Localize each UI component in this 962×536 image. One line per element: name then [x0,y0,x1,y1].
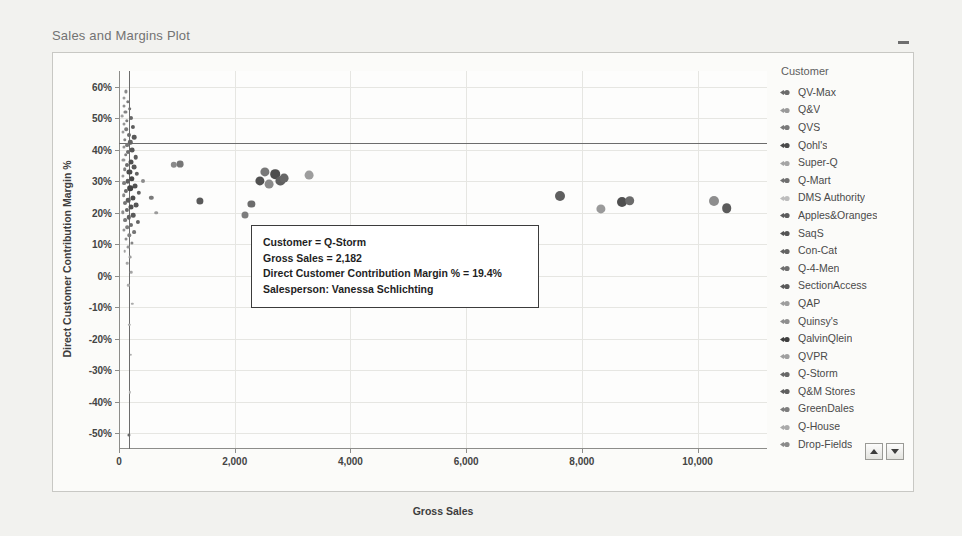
scatter-point[interactable] [134,202,139,207]
x-tick-mark [119,449,120,453]
legend-item[interactable]: Apples&Oranges [775,206,911,224]
scatter-point[interactable] [127,245,130,248]
scatter-point[interactable] [132,135,137,140]
gridline-vertical [698,71,699,449]
scatter-point[interactable] [177,161,184,168]
legend-item-label: Apples&Oranges [798,209,877,221]
scatter-point[interactable] [154,211,158,215]
tooltip-gross-sales: Gross Sales = 2,182 [263,251,527,267]
scatter-point[interactable] [130,147,135,152]
legend-item[interactable]: QAP [775,294,911,312]
scatter-point[interactable] [722,203,732,213]
scatter-point[interactable] [265,180,274,189]
legend-item[interactable]: QV-Max [775,83,911,101]
scatter-point[interactable] [124,127,128,131]
gridline-horizontal [119,181,767,182]
y-tick-label: 30% [92,176,112,187]
scatter-point[interactable] [141,179,145,183]
scatter-point[interactable] [125,163,129,167]
scatter-point[interactable] [126,262,129,265]
legend-scroll-controls [865,443,904,460]
legend-marker-icon [779,332,792,345]
scatter-point[interactable] [123,201,127,205]
scatter-point[interactable] [130,271,133,274]
minimize-button[interactable] [897,36,910,48]
scatter-point[interactable] [129,116,133,120]
scatter-point[interactable] [122,104,125,107]
legend-scroll-up-button[interactable] [865,443,883,460]
scatter-point[interactable] [121,114,124,117]
legend-marker-icon [779,85,792,98]
scatter-point[interactable] [128,205,133,210]
legend-item[interactable]: DMS Authority [775,189,911,207]
legend-item-label: Quinsy's [798,315,838,327]
legend-marker-icon [779,367,792,380]
legend-item-label: QVS [798,121,820,133]
legend-item[interactable]: Quinsy's [775,312,911,330]
scatter-point[interactable] [132,183,137,188]
legend-item[interactable]: GreenDales [775,400,911,418]
scatter-point[interactable] [133,155,138,160]
chevron-up-icon [870,449,878,454]
legend-item-label: Qohl's [798,139,827,151]
scatter-point[interactable] [122,131,125,134]
page-title: Sales and Margins Plot [52,28,190,43]
scatter-point[interactable] [123,250,126,253]
scatter-point[interactable] [123,123,126,126]
scatter-point[interactable] [122,194,126,198]
legend-item[interactable]: QalvinQlein [775,329,911,347]
legend-item-label: SectionAccess [798,279,867,291]
legend-item[interactable]: Q-House [775,417,911,435]
legend-item[interactable]: Q&V [775,101,911,119]
scatter-point[interactable] [123,218,127,222]
legend-item-label: Super-Q [798,156,838,168]
legend-item[interactable]: QVS [775,118,911,136]
scatter-point[interactable] [280,174,289,183]
scatter-point[interactable] [125,143,129,147]
x-tick-label: 10,000 [682,456,713,467]
legend-marker-icon [779,437,792,450]
legend-item[interactable]: Qohl's [775,136,911,154]
legend-item[interactable]: SectionAccess [775,277,911,295]
legend-scroll-down-button[interactable] [886,443,904,460]
scatter-point[interactable] [625,196,635,206]
legend-marker-icon [779,226,792,239]
scatter-point[interactable] [131,213,136,218]
legend-item[interactable]: Con-Cat [775,241,911,259]
tooltip-customer: Customer = Q-Storm [263,235,527,251]
scatter-point[interactable] [129,255,132,258]
gridline-horizontal [119,339,767,340]
x-axis-line [119,448,767,449]
scatter-point[interactable] [125,237,128,240]
scatter-point[interactable] [124,153,128,157]
legend-item[interactable]: Q&M Stores [775,382,911,400]
legend-item-label: Q-House [798,420,840,432]
legend-item[interactable]: QVPR [775,347,911,365]
scatter-point[interactable] [242,211,249,218]
scatter-point[interactable] [123,96,126,99]
scatter-point[interactable] [305,171,314,180]
x-tick-mark [582,449,583,453]
legend-item-label: Q&V [798,103,820,115]
scatter-point[interactable] [127,133,131,137]
legend-item[interactable]: Q-4-Men [775,259,911,277]
scatter-point[interactable] [555,191,565,201]
legend-item[interactable]: Super-Q [775,153,911,171]
legend-item-label: DMS Authority [798,191,865,203]
legend-marker-icon [779,296,792,309]
legend-item[interactable]: Q-Mart [775,171,911,189]
scatter-point[interactable] [126,225,130,229]
scatter-point[interactable] [123,182,127,186]
x-tick-mark [235,449,236,453]
scatter-point[interactable] [131,165,136,170]
legend-item-label: QalvinQlein [798,332,852,344]
legend-item[interactable]: Q-Storm [775,365,911,383]
scatter-point[interactable] [129,223,133,227]
scatter-point[interactable] [128,107,132,111]
legend-marker-icon [779,349,792,362]
scatter-point[interactable] [127,185,133,191]
scatter-point[interactable] [709,196,719,206]
x-axis-title: Gross Sales [413,505,474,517]
legend-item[interactable]: SaqS [775,224,911,242]
scatter-point[interactable] [132,230,136,234]
